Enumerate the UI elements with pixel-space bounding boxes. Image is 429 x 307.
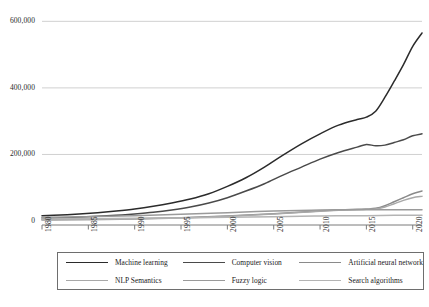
chart-legend: Machine learningComputer visionArtificia… xyxy=(57,252,424,290)
x-axis-tick-label: 1995 xyxy=(184,216,192,232)
legend-color-swatch xyxy=(299,280,341,281)
chart-plot-area: 0200,000400,000600,000 19801985199019952… xyxy=(0,0,429,240)
legend-item-label: Computer vision xyxy=(232,258,282,267)
legend-color-swatch xyxy=(183,262,225,263)
y-axis-tick-label: 600,000 xyxy=(0,17,35,25)
legend-color-swatch xyxy=(183,280,225,281)
legend-item[interactable]: Computer vision xyxy=(175,258,292,267)
series-line xyxy=(42,33,422,216)
figure-caption xyxy=(0,297,429,307)
line-chart-svg xyxy=(0,0,429,240)
x-axis-tick-label: 2015 xyxy=(369,216,377,232)
legend-item[interactable]: Fuzzy logic xyxy=(175,276,292,285)
legend-item-label: NLP Semantics xyxy=(115,276,162,285)
legend-item[interactable]: NLP Semantics xyxy=(58,276,175,285)
legend-item-label: Machine learning xyxy=(115,258,168,267)
x-axis-tick-label: 1990 xyxy=(138,216,146,232)
x-axis-tick-label: 1985 xyxy=(91,216,99,232)
legend-item[interactable]: Machine learning xyxy=(58,258,175,267)
legend-grid: Machine learningComputer visionArtificia… xyxy=(58,253,423,289)
legend-item-label: Fuzzy logic xyxy=(232,276,267,285)
series-lines xyxy=(42,33,422,220)
legend-item[interactable]: Artificial neural network xyxy=(291,258,423,267)
legend-color-swatch xyxy=(66,280,108,281)
y-axis-tick-label: 0 xyxy=(0,217,35,225)
legend-color-swatch xyxy=(299,262,341,263)
y-axis-tick-label: 200,000 xyxy=(0,150,35,158)
x-axis-tick-label: 2010 xyxy=(323,216,331,232)
gridlines xyxy=(42,21,422,154)
legend-item-label: Search algorithms xyxy=(348,276,402,285)
x-axis-tick-label: 1980 xyxy=(45,216,53,232)
legend-color-swatch xyxy=(66,262,108,263)
y-axis-tick-label: 400,000 xyxy=(0,84,35,92)
legend-item-label: Artificial neural network xyxy=(348,258,423,267)
legend-item[interactable]: Search algorithms xyxy=(291,276,423,285)
x-axis-tick-label: 2000 xyxy=(230,216,238,232)
series-line xyxy=(42,134,422,218)
figure: 0200,000400,000600,000 19801985199019952… xyxy=(0,0,429,307)
x-axis-tick-label: 2005 xyxy=(277,216,285,232)
x-axis-tick-label: 2020 xyxy=(416,216,424,232)
